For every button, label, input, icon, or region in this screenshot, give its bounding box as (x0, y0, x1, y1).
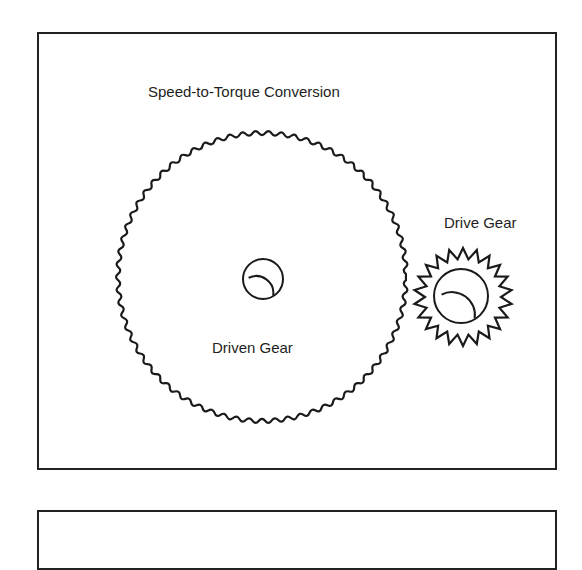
next-diagram-panel (37, 510, 557, 570)
diagram-title: Speed-to-Torque Conversion (148, 84, 340, 99)
driven-gear-label: Driven Gear (212, 340, 293, 355)
drive-gear-label: Drive Gear (444, 215, 517, 230)
